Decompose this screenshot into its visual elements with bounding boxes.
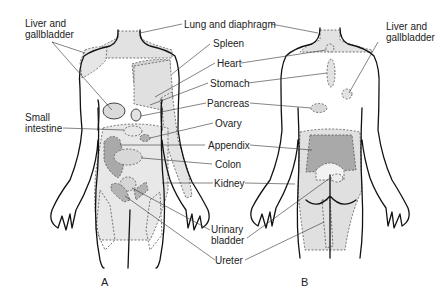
panel-label-b: B (301, 276, 308, 288)
label-small-intestine: Small intestine (25, 112, 62, 134)
label-liver-gallbladder-back: Liver and gallbladder (386, 21, 435, 43)
label-ovary: Ovary (215, 118, 242, 129)
label-lung-diaphragm: Lung and diaphragm (184, 19, 276, 30)
colon-zone (114, 149, 142, 165)
label-appendix: Appendix (208, 140, 250, 151)
stomach-zone-b (327, 59, 335, 87)
label-urinary-bladder: Urinary bladder (211, 224, 244, 246)
liver-zone-a-abdomen (103, 103, 125, 119)
label-stomach: Stomach (210, 78, 249, 89)
label-spleen: Spleen (213, 38, 244, 49)
panel-label-a: A (101, 276, 109, 288)
label-colon: Colon (215, 159, 241, 170)
heart-zone-b (326, 44, 334, 52)
figure-b-back-view: B (251, 28, 409, 288)
label-kidney: Kidney (214, 178, 245, 189)
kidney-zone-b (331, 174, 343, 182)
pancreas-zone-a (131, 109, 141, 121)
label-ureter: Ureter (215, 255, 243, 266)
figure-a-front-view: A (51, 30, 209, 288)
label-pancreas: Pancreas (207, 98, 249, 109)
ovary-zone (140, 135, 150, 142)
label-heart: Heart (217, 58, 241, 69)
label-liver-gallbladder-front: Liver and gallbladder (25, 18, 74, 40)
small-intestine-zone (124, 126, 142, 136)
pancreas-zone-b (311, 104, 327, 113)
